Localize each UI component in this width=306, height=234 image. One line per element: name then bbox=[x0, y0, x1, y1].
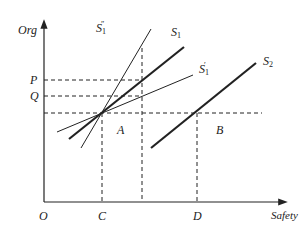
tick-P: P bbox=[30, 74, 37, 86]
x-axis-label: Safety bbox=[271, 210, 298, 221]
diagram-canvas bbox=[0, 0, 306, 234]
origin-label: O bbox=[39, 210, 48, 222]
curve-S1-prime bbox=[57, 75, 193, 132]
y-axis-label: Org bbox=[18, 24, 37, 36]
region-B: B bbox=[216, 124, 223, 136]
region-A: A bbox=[117, 124, 124, 136]
tick-C: C bbox=[98, 210, 106, 222]
label-S1-prime: S1′ bbox=[199, 62, 206, 77]
tick-Q: Q bbox=[30, 90, 39, 102]
tick-D: D bbox=[193, 210, 202, 222]
label-S2: S2 bbox=[263, 55, 273, 69]
curve-S1 bbox=[69, 47, 184, 139]
label-S1: S1 bbox=[171, 26, 181, 40]
curve-S1-double-prime bbox=[81, 29, 151, 148]
label-S1-double-prime: S1″ bbox=[96, 21, 104, 36]
